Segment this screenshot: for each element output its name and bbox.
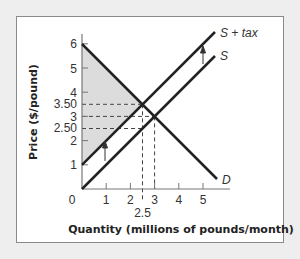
label-s-plus-tax: S + tax: [220, 26, 259, 40]
svg-text:2: 2: [70, 134, 77, 148]
y-axis-title: Price ($/pound): [27, 64, 40, 160]
svg-text:6: 6: [70, 37, 77, 51]
y-tick-labels: 1 2 3 4 5 6 3.50 2.50: [54, 37, 78, 172]
label-s: S: [220, 49, 228, 63]
svg-text:4: 4: [175, 193, 182, 207]
svg-text:3.50: 3.50: [54, 97, 78, 111]
x-tick-labels: 0 1 2 3 4 5 2.5: [69, 193, 207, 220]
chart: S + tax S D 1 2 3 4 5 6 3.50 2.50 0 1 2 …: [0, 0, 300, 259]
svg-text:1: 1: [103, 193, 110, 207]
svg-text:3: 3: [151, 193, 158, 207]
svg-text:2.50: 2.50: [54, 121, 78, 135]
svg-text:2.5: 2.5: [134, 206, 151, 220]
svg-text:5: 5: [70, 62, 77, 76]
svg-text:0: 0: [69, 193, 76, 207]
svg-text:5: 5: [200, 193, 207, 207]
label-d: D: [222, 173, 231, 187]
x-ticks: [106, 183, 203, 189]
x-axis-title: Quantity (millions of pounds/month): [68, 223, 294, 236]
svg-text:2: 2: [127, 193, 134, 207]
svg-text:1: 1: [70, 158, 77, 172]
shift-arrow-upper: [201, 46, 206, 64]
